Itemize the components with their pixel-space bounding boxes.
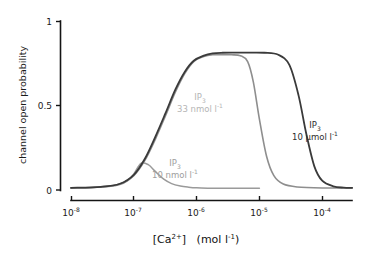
annotation-ip3-10-nmol-line2: 10 nmol l-1 [152, 168, 198, 180]
annotation-ip3-10-umol-subscript: 3 [317, 125, 321, 132]
x-tick-label-1e-6-exponent: -6 [199, 206, 205, 213]
y-tick-label-0: 0 [46, 186, 52, 196]
x-tick-label-1e-8: 10-8 [62, 206, 80, 218]
x-tick-label-1e-4-exponent: -4 [325, 206, 331, 213]
annotation-ip3-33-nmol-value: 33 nmol l [177, 104, 217, 114]
x-tick-label-1e-7: 10-7 [124, 206, 142, 218]
x-axis-title-units-close: ) [235, 233, 239, 246]
x-tick-label-1e-6: 10-6 [187, 206, 205, 218]
x-tick-label-1e-7-mantissa: 10 [124, 208, 136, 218]
x-tick-label-1e-4: 10-4 [313, 206, 331, 218]
annotation-ip3-10-umol-units-sup: -1 [332, 130, 338, 137]
annotation-ip3-33-nmol-units-sup: -1 [217, 102, 223, 109]
y-tick-label-1: 1 [46, 17, 52, 27]
x-axis-title-bracket-open: [Ca [153, 233, 172, 246]
annotation-ip3-33-nmol-main: IP [194, 92, 202, 102]
x-axis-title-units-sup: -1 [228, 233, 235, 241]
x-axis-title: [Ca2+] (mol l-1) [153, 233, 239, 246]
x-tick-label-1e-7-exponent: -7 [136, 206, 142, 213]
x-tick-label-1e-5: 10-5 [250, 206, 268, 218]
annotation-ip3-10-nmol-main: IP [169, 158, 177, 168]
annotation-ip3-10-umol-main: IP [309, 120, 317, 130]
x-tick-label-1e-5-exponent: -5 [262, 206, 268, 213]
chart-figure: 1 0.5 0 channel open probability 10-8 10… [0, 0, 376, 259]
y-tick-label-0point5: 0.5 [38, 101, 52, 111]
x-tick-label-1e-4-mantissa: 10 [313, 208, 325, 218]
x-tick-label-1e-5-mantissa: 10 [250, 208, 262, 218]
annotation-ip3-33-nmol-line1: IP3 [194, 92, 206, 104]
annotation-ip3-33-nmol-line2: 33 nmol l-1 [177, 102, 223, 114]
annotation-ip3-10-umol: IP3 10 μmol l-1 [292, 120, 338, 142]
x-axis-title-charge: 2+ [171, 233, 181, 241]
x-tick-label-1e-8-exponent: -8 [74, 206, 80, 213]
annotation-ip3-10-nmol-subscript: 3 [177, 163, 181, 170]
annotation-ip3-10-nmol-value: 10 nmol l [152, 170, 192, 180]
y-axis-title: channel open probability [17, 46, 28, 164]
annotation-ip3-10-umol-line1: IP3 [309, 120, 321, 132]
annotation-ip3-10-umol-value: 10 μmol l [292, 132, 332, 142]
annotation-ip3-10-umol-line2: 10 μmol l-1 [292, 130, 338, 142]
x-axis-title-units-open: (mol l [197, 233, 228, 246]
annotation-ip3-33-nmol: IP3 33 nmol l-1 [177, 92, 223, 114]
annotation-ip3-33-nmol-subscript: 3 [202, 97, 206, 104]
x-tick-label-1e-6-mantissa: 10 [187, 208, 199, 218]
channel-open-probability-chart: 1 0.5 0 channel open probability 10-8 10… [0, 0, 376, 259]
annotation-ip3-10-nmol-units-sup: -1 [192, 168, 198, 175]
x-tick-label-1e-8-mantissa: 10 [62, 208, 74, 218]
annotation-ip3-10-nmol-line1: IP3 [169, 158, 181, 170]
annotation-ip3-10-nmol: IP3 10 nmol l-1 [152, 158, 198, 180]
